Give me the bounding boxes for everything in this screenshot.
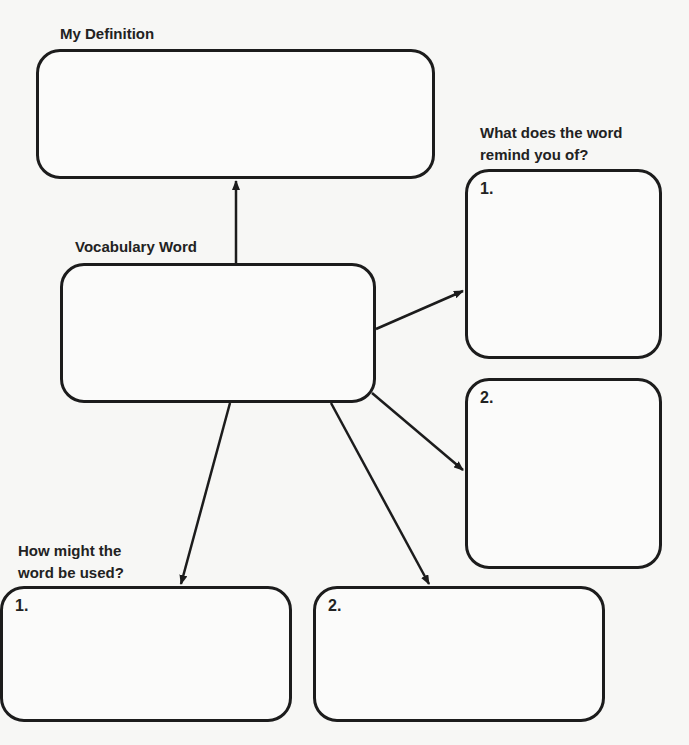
usage-label: How might the word be used? [18, 540, 124, 584]
usage-box-1[interactable]: 1. [0, 586, 292, 722]
vocabulary-box[interactable] [60, 263, 376, 403]
arrow-to-usage-2 [331, 403, 429, 584]
remind-box-1[interactable]: 1. [465, 169, 662, 359]
remind-box-2-number: 2. [480, 389, 493, 407]
definition-box[interactable] [36, 49, 435, 179]
arrow-to-remind-1 [376, 291, 463, 329]
remind-label: What does the word remind you of? [480, 122, 623, 166]
arrow-to-usage-1 [181, 403, 230, 584]
arrow-to-remind-2 [372, 393, 463, 470]
usage-box-2[interactable]: 2. [313, 586, 605, 722]
usage-box-1-number: 1. [15, 597, 28, 615]
vocabulary-label: Vocabulary Word [75, 236, 197, 258]
definition-label: My Definition [60, 23, 154, 45]
remind-box-1-number: 1. [480, 180, 493, 198]
usage-box-2-number: 2. [328, 597, 341, 615]
remind-box-2[interactable]: 2. [465, 378, 662, 569]
